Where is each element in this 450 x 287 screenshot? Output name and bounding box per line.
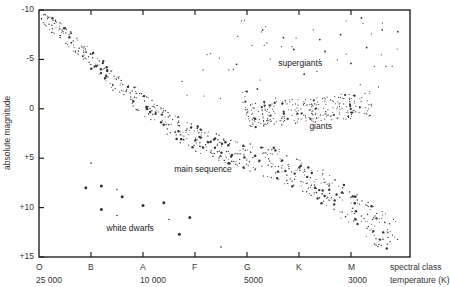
- y-tick-label: +10: [6, 202, 34, 212]
- x-tick-temperature: 5000: [244, 275, 263, 285]
- annotation-label: main sequence: [174, 164, 232, 174]
- star-points: [41, 14, 399, 250]
- axis-ticks: [39, 10, 351, 257]
- x-tick-class: G: [244, 262, 251, 272]
- y-tick-label: -5: [6, 53, 34, 63]
- y-tick-label: +15: [6, 251, 34, 261]
- y-tick-label: -10: [6, 4, 34, 14]
- x-tick-class: B: [88, 262, 94, 272]
- annotation-label: white dwarfs: [107, 223, 154, 233]
- annotation-label: supergiants: [278, 58, 322, 68]
- plot-frame: [39, 10, 410, 257]
- x-tick-temperature: 3000: [348, 275, 367, 285]
- x-tick-class: M: [348, 262, 355, 272]
- x-axis-title-line1: spectral class: [390, 262, 442, 272]
- x-tick-class: O: [36, 262, 43, 272]
- x-tick-temperature: 10 000: [140, 275, 166, 285]
- x-tick-temperature: 25 000: [36, 275, 62, 285]
- y-axis-label: absolute magnitude: [2, 96, 12, 170]
- x-tick-class: K: [296, 262, 302, 272]
- x-axis-title-line2: temperature (K): [390, 275, 450, 285]
- x-tick-class: A: [140, 262, 146, 272]
- annotation-label: giants: [309, 121, 332, 131]
- x-tick-class: F: [192, 262, 197, 272]
